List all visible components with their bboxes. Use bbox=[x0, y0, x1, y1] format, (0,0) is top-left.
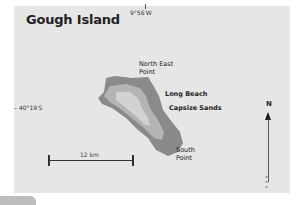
place-north-east-point: North East Point bbox=[139, 60, 173, 76]
north-label: N bbox=[266, 100, 272, 108]
scale-bar bbox=[49, 160, 133, 161]
bottom-tab[interactable] bbox=[0, 196, 36, 205]
longitude-label: 9°56′W bbox=[130, 9, 152, 16]
place-south-point: South Point bbox=[176, 146, 195, 162]
latitude-label: – 40°19′S bbox=[14, 104, 42, 111]
place-capsize-sands: Capsize Sands bbox=[169, 104, 222, 112]
north-arrow-feather-icon: ˄˄˄ bbox=[265, 176, 268, 191]
scale-bar-right-cap bbox=[132, 155, 134, 166]
map-title: Gough Island bbox=[26, 12, 120, 27]
north-arrow-shaft bbox=[268, 118, 269, 182]
place-long-beach: Long Beach bbox=[165, 90, 207, 98]
scale-label: 12 km bbox=[80, 151, 99, 158]
gough-island-shape bbox=[0, 0, 297, 205]
